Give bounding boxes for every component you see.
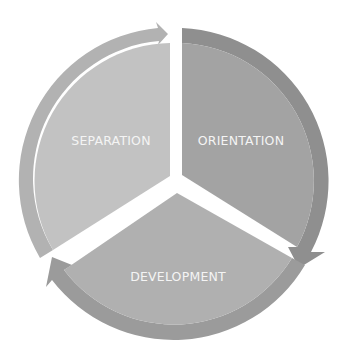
separation-label: SEPARATION: [71, 133, 150, 148]
cycle-diagram: ORIENTATION DEVELOPMENT SEPARATION: [0, 0, 350, 361]
development-label: DEVELOPMENT: [130, 269, 226, 284]
orientation-label: ORIENTATION: [198, 133, 284, 148]
